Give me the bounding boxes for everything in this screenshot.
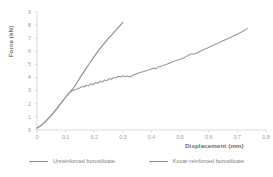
legend-label: Unreinforced borosilicate (53, 158, 115, 164)
series-line (37, 22, 123, 128)
x-tick-label: 0.6 (200, 134, 218, 140)
force-displacement-chart: Force (kN) Displacement (mm) 0123456789 … (0, 0, 273, 177)
legend-item-unreinforced: Unreinforced borosilicate (29, 158, 115, 164)
legend-line-swatch (149, 161, 168, 162)
data-series (37, 22, 247, 128)
y-axis-title: Force (kN) (7, 16, 14, 68)
legend-item-kovar-reinforced: Kovar-reinforced borosilicate (149, 158, 244, 164)
plot-area (0, 0, 273, 177)
x-tick-label: 0.8 (257, 134, 273, 140)
y-tick-label: 5 (17, 61, 31, 67)
y-tick-label: 3 (17, 87, 31, 93)
series-line (37, 28, 247, 128)
y-tick-label: 8 (17, 22, 31, 28)
x-tick-label: 0.5 (171, 134, 189, 140)
y-tick-label: 2 (17, 101, 31, 107)
chart-legend: Unreinforced borosilicate Kovar-reinforc… (0, 158, 273, 164)
legend-label: Kovar-reinforced borosilicate (173, 158, 244, 164)
x-tick-label: 0.2 (85, 134, 103, 140)
axes (37, 12, 266, 130)
x-tick-label: 0 (28, 134, 46, 140)
y-tick-label: 6 (17, 48, 31, 54)
y-tick-label: 1 (17, 114, 31, 120)
x-tick-label: 0.1 (57, 134, 75, 140)
x-axis-title: Displacement (mm) (185, 142, 244, 149)
x-tick-label: 0.7 (228, 134, 246, 140)
y-tick-label: 4 (17, 74, 31, 80)
x-tick-label: 0.4 (143, 134, 161, 140)
y-tick-label: 0 (17, 127, 31, 133)
y-tick-label: 9 (17, 9, 31, 15)
x-tick-label: 0.3 (114, 134, 132, 140)
y-tick-label: 7 (17, 35, 31, 41)
legend-line-swatch (29, 161, 48, 162)
